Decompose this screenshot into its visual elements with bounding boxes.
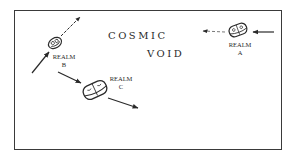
title-void: VOID (147, 48, 184, 59)
title-cosmic: COSMIC (108, 30, 168, 41)
realm-b-letter: B (50, 61, 78, 69)
realm-c-letter: C (107, 83, 135, 91)
realm-a-word: REALM (226, 41, 254, 49)
realm-b-label: REALM B (50, 53, 78, 69)
realm-b-icon (46, 35, 63, 51)
realm-c-label: REALM C (107, 75, 135, 91)
realm-a-icon (228, 22, 249, 38)
realm-b-word: REALM (50, 53, 78, 61)
realm-b-incoming-arrow (32, 52, 49, 73)
realm-a-letter: A (226, 49, 254, 57)
realm-c-outgoing-arrow (108, 98, 138, 108)
diagram-artwork (0, 0, 295, 161)
realm-b-outgoing-arrow (61, 17, 80, 36)
realm-c-icon (81, 79, 109, 102)
realm-a-outgoing-arrow (203, 31, 225, 32)
realm-c-incoming-arrow (58, 72, 81, 83)
realm-c-word: REALM (107, 75, 135, 83)
realm-a-label: REALM A (226, 41, 254, 57)
